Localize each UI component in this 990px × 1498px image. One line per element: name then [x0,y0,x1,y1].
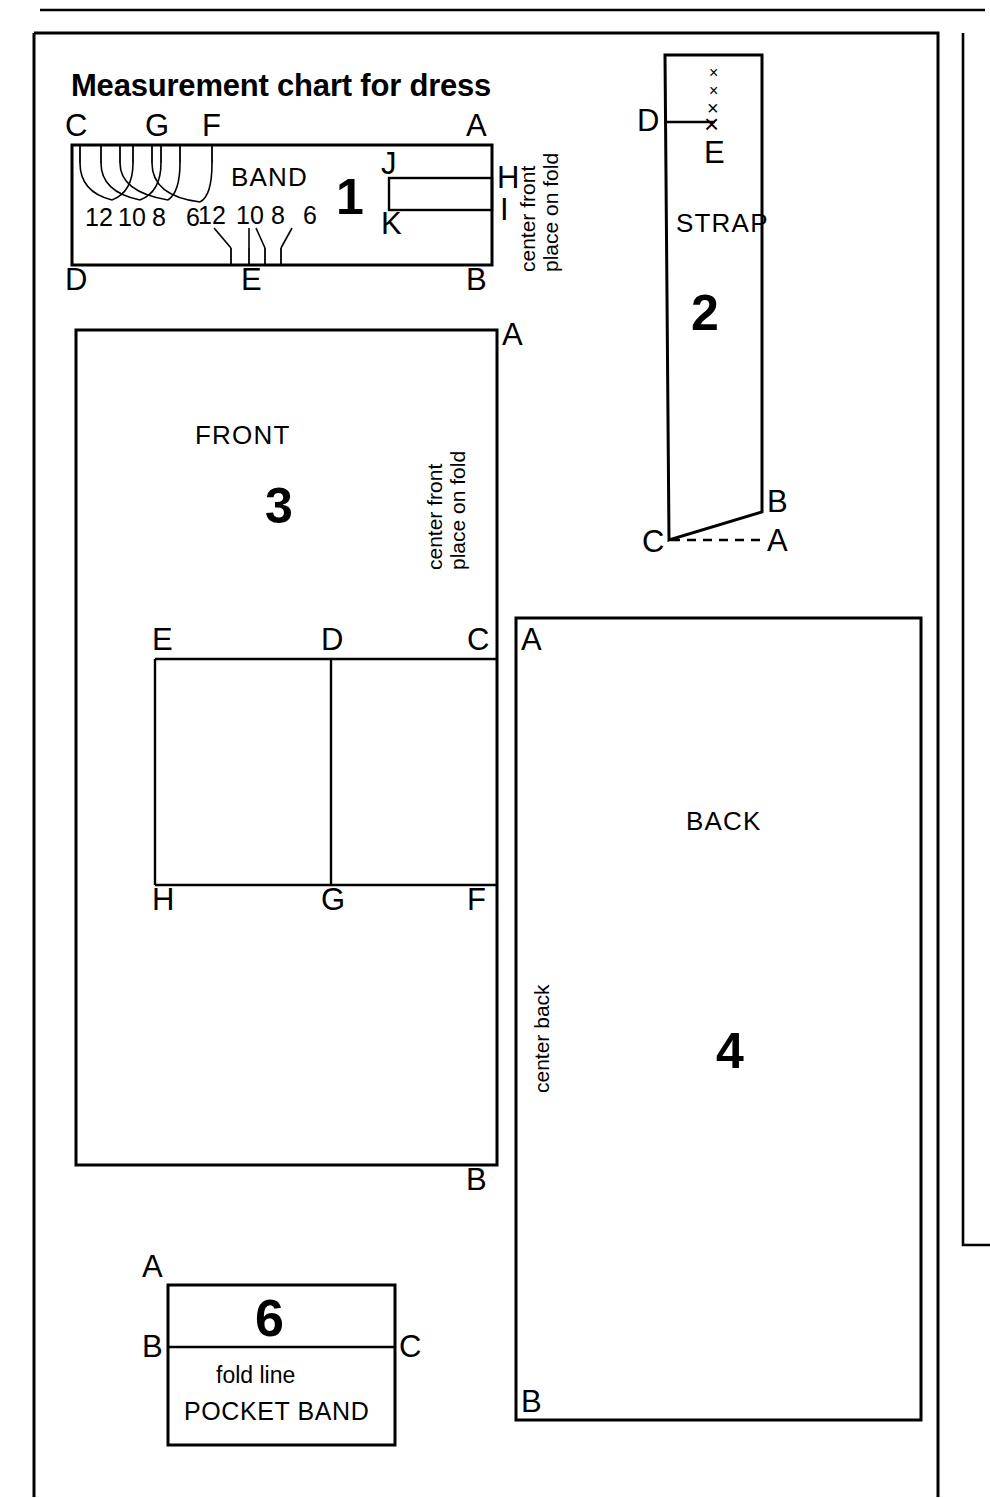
pocket-band-number: 6 [255,1289,284,1347]
band-fold-note-line2: place on fold [539,153,562,272]
band-label: BAND [231,162,308,192]
pocket-point-F: F [467,882,486,917]
band-top-ticks [80,145,212,163]
strap-mark-1: × [709,64,718,81]
back-point-B: B [521,1384,542,1419]
piece-pocket-band: A B C 6 fold line POCKET BAND [142,1249,421,1445]
front-outline [76,330,497,1165]
band-inset-strip [389,178,492,210]
pattern-diagram: Measurement chart for dress C A D B G F … [0,0,990,1498]
pocket-point-G: G [321,882,345,917]
pocket-band-fold-label: fold line [216,1362,295,1388]
pocket-point-H: H [152,882,174,917]
pocket-band-label: POCKET BAND [184,1397,369,1425]
back-fold-note: center back [530,984,553,1093]
front-fold-note-line2: place on fold [446,451,469,570]
front-point-B: B [466,1162,487,1197]
band-top-size-12: 12 [85,203,113,231]
page-frame-main [34,33,938,1497]
band-point-B: B [466,262,487,297]
piece-band: C A D B G F E 12 1 [65,108,562,297]
front-pocket-placement: E D C H G F [152,622,497,917]
back-point-A: A [521,622,542,657]
band-top-leaders [80,163,212,202]
back-number: 4 [716,1023,744,1079]
band-point-A: A [466,108,487,143]
band-bottom-leaders [214,228,292,248]
band-point-C: C [65,108,87,143]
band-number: 1 [336,169,364,225]
front-label: FRONT [195,420,291,450]
measurement-chart-sheet: Measurement chart for dress C A D B G F … [0,0,990,1498]
band-point-J: J [381,146,397,181]
band-bottom-size-10: 10 [236,201,264,229]
band-bottom-size-8: 8 [271,201,285,229]
pocket-point-D: D [321,622,343,657]
strap-point-E: E [704,135,725,170]
pocket-band-point-A: A [142,1249,163,1284]
piece-back: A B BACK 4 center back [516,618,921,1420]
strap-point-A: A [767,523,788,558]
page-frame-outer-right [963,33,990,1245]
front-fold-note-line1: center front [423,464,446,570]
strap-label: STRAP [676,208,769,238]
band-bottom-size-12: 12 [198,201,226,229]
band-fold-note-line1: center front [516,166,539,272]
band-top-size-8: 8 [152,203,166,231]
band-bottom-size-6: 6 [303,201,317,229]
pocket-band-point-C: C [399,1329,421,1364]
strap-point-C: C [642,524,664,559]
band-point-G: G [145,108,169,143]
band-point-D: D [65,262,87,297]
band-point-F: F [202,108,221,143]
strap-point-B: B [767,484,788,519]
page-title: Measurement chart for dress [71,68,491,103]
strap-number: 2 [691,285,719,341]
piece-front: A B FRONT 3 center front place on fold E… [76,317,523,1197]
pocket-point-C: C [467,622,489,657]
band-point-K: K [381,206,402,241]
pocket-band-point-B: B [142,1329,163,1364]
back-label: BACK [686,806,762,836]
front-point-A: A [502,317,523,352]
front-number: 3 [265,478,293,534]
pocket-point-E: E [152,622,173,657]
band-point-E: E [241,262,262,297]
band-top-size-10: 10 [118,203,146,231]
band-point-I: I [500,192,509,227]
back-outline [516,618,921,1420]
strap-point-D: D [637,103,659,138]
piece-strap: × × × × D E STRAP 2 C B A [637,55,788,559]
